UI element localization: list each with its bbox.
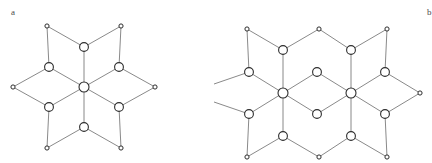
graph-node-interior xyxy=(115,63,124,72)
graph-edge xyxy=(351,72,385,93)
graph-edge xyxy=(385,93,420,114)
graph-node-interior xyxy=(313,110,322,119)
graph-edge xyxy=(84,87,119,107)
graph-edge xyxy=(49,87,84,107)
edges-layer xyxy=(13,26,420,157)
graph-node-interior xyxy=(347,132,356,141)
graph-edge xyxy=(351,93,385,114)
graph-node-hub xyxy=(79,82,89,92)
graph-edge xyxy=(385,29,387,72)
graph-edge xyxy=(84,67,119,87)
graph-node-interior xyxy=(381,110,390,119)
graph-node-boundary xyxy=(418,91,422,95)
graph-edge xyxy=(249,93,283,114)
graph-node-hub xyxy=(278,88,288,98)
graph-edge xyxy=(247,29,283,50)
graph-node-boundary xyxy=(245,27,249,31)
graph-node-interior xyxy=(347,46,356,55)
graph-edge xyxy=(283,136,319,157)
graph-node-interior xyxy=(279,46,288,55)
graph-edge xyxy=(247,136,283,157)
graph-edge xyxy=(84,127,121,148)
graph-edge xyxy=(283,29,319,50)
graph-node-boundary xyxy=(153,85,157,89)
graph-edge xyxy=(319,136,351,157)
graph-node-boundary xyxy=(119,24,123,28)
graph-edge xyxy=(247,29,249,72)
graph-node-interior xyxy=(313,68,322,77)
graph-node-interior xyxy=(80,123,89,132)
graph-edge xyxy=(47,26,84,47)
graph-edge xyxy=(47,127,84,148)
graph-node-boundary xyxy=(385,27,389,31)
graph-node-boundary xyxy=(317,27,321,31)
graph-node-interior xyxy=(45,103,54,112)
graph-edge xyxy=(84,26,121,47)
graph-node-boundary xyxy=(45,146,49,150)
graph-edge xyxy=(317,72,351,93)
graph-edge xyxy=(385,114,387,157)
graph-edge xyxy=(47,26,49,67)
graph-node-interior xyxy=(45,63,54,72)
graph-edge xyxy=(47,107,49,148)
graph-edge xyxy=(13,87,49,107)
graph-edge xyxy=(351,136,387,157)
graph-node-hub xyxy=(346,88,356,98)
graph-edge xyxy=(119,87,155,107)
graph-node-interior xyxy=(279,132,288,141)
graph-edge xyxy=(249,72,283,93)
graph-edge xyxy=(283,72,317,93)
graph-node-boundary xyxy=(11,85,15,89)
graph-node-interior xyxy=(245,110,254,119)
graph-node-interior xyxy=(381,68,390,77)
graph-edge xyxy=(385,72,420,93)
graph-edge xyxy=(247,114,249,157)
graph-node-boundary xyxy=(119,146,123,150)
graph-node-boundary xyxy=(317,155,321,159)
graph-edge xyxy=(214,102,249,114)
graph-edge xyxy=(319,29,351,50)
graph-node-boundary xyxy=(45,24,49,28)
graph-node-boundary xyxy=(245,155,249,159)
graph-edge xyxy=(49,67,84,87)
graph-edge xyxy=(13,67,49,87)
graph-edge xyxy=(283,93,317,114)
graph-node-interior xyxy=(245,68,254,77)
graph-node-boundary xyxy=(385,155,389,159)
graph-edge xyxy=(119,107,121,148)
graph-node-interior xyxy=(115,103,124,112)
graph-node-interior xyxy=(80,43,89,52)
graph-edge xyxy=(119,26,121,67)
graph-edge xyxy=(119,67,155,87)
graph-edge xyxy=(214,72,249,84)
graph-edge xyxy=(317,93,351,114)
graph-edge xyxy=(351,29,387,50)
